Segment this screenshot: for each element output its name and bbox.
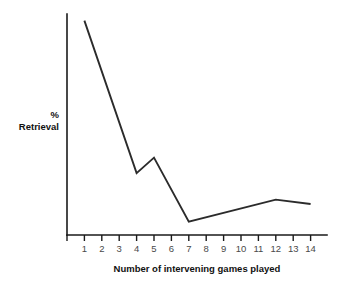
x-axis-tick-label: 8	[204, 243, 209, 254]
x-axis-tick-label: 13	[288, 243, 299, 254]
x-axis-tick-label: 2	[99, 243, 104, 254]
x-axis-tick-labels: 1234567891011121314	[82, 243, 316, 254]
x-axis-tick-label: 10	[236, 243, 247, 254]
retrieval-data-line	[84, 21, 310, 222]
x-axis-tick-label: 11	[253, 243, 263, 254]
x-axis-tick-label: 6	[169, 243, 174, 254]
y-axis-label-group: % Retrieval	[19, 109, 60, 132]
x-axis-tick-marks	[67, 235, 311, 241]
y-axis-label-line-2: Retrieval	[19, 121, 59, 132]
x-axis-tick-label: 7	[186, 243, 191, 254]
x-axis-tick-label: 3	[117, 243, 122, 254]
chart-figure: 1234567891011121314 % Retrieval Number o…	[0, 0, 354, 286]
x-axis-tick-label: 1	[82, 243, 87, 254]
x-axis-tick-label: 9	[221, 243, 226, 254]
y-axis-label-line-1: %	[51, 109, 60, 120]
x-axis-title: Number of intervening games played	[114, 263, 281, 274]
x-axis-tick-label: 4	[134, 243, 139, 254]
x-axis-tick-label: 12	[271, 243, 282, 254]
x-axis-tick-label: 5	[151, 243, 156, 254]
x-axis-tick-label: 14	[305, 243, 316, 254]
line-chart-plot: 1234567891011121314 % Retrieval Number o…	[0, 0, 354, 286]
